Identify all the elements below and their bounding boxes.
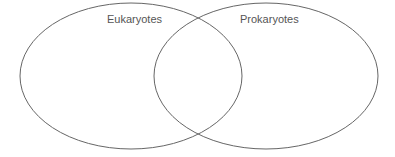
prokaryotes-label: Prokaryotes (240, 13, 299, 25)
venn-diagram (0, 0, 395, 157)
eukaryotes-label: Eukaryotes (107, 13, 162, 25)
